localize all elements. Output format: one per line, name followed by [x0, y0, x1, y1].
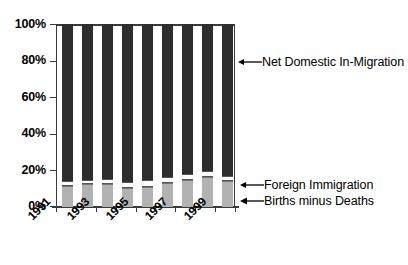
bar-segment-foreign-immigration [162, 177, 173, 183]
bar-segment-foreign-immigration [182, 174, 193, 180]
bar-segment-net-domestic-in-migration [222, 24, 233, 176]
bar-1994 [122, 24, 133, 207]
bar-segment-net-domestic-in-migration [162, 24, 173, 177]
annotation-births-minus-deaths: Births minus Deaths [240, 194, 374, 208]
arrow-left-icon [240, 180, 264, 190]
bar-1991 [62, 24, 73, 207]
x-axis-tick [215, 207, 216, 212]
annotation-foreign-immigration: Foreign Immigration [240, 178, 373, 192]
x-axis-tick [136, 207, 137, 212]
arrow-left-icon [240, 196, 264, 206]
bar-1993 [102, 24, 113, 207]
x-axis-tick [96, 207, 97, 212]
bar-1995 [142, 24, 153, 207]
bar-segment-net-domestic-in-migration [182, 24, 193, 174]
x-axis-tick [235, 207, 236, 212]
bar-segment-net-domestic-in-migration [62, 24, 73, 181]
bar-1996 [162, 24, 173, 207]
stacked-bar-chart: 100% 80% 60% 40% 20% 0% 1991 1993 1995 1… [0, 0, 408, 265]
bar-1998 [202, 24, 213, 207]
bar-segment-net-domestic-in-migration [82, 24, 93, 180]
annotation-label: Births minus Deaths [264, 194, 374, 208]
y-axis-label-80: 80% [0, 54, 46, 67]
bar-segment-net-domestic-in-migration [202, 24, 213, 171]
annotation-label: Net Domestic In-Migration [262, 55, 404, 69]
arrow-left-icon [238, 57, 262, 67]
bar-segment-net-domestic-in-migration [142, 24, 153, 180]
bars-container [56, 24, 235, 207]
x-axis-tick [175, 207, 176, 212]
y-axis-label-20: 20% [0, 164, 46, 177]
annotation-label: Foreign Immigration [264, 178, 373, 192]
bar-segment-foreign-immigration [142, 180, 153, 186]
y-axis-label-60: 60% [0, 91, 46, 104]
y-axis-label-40: 40% [0, 127, 46, 140]
bar-1992 [82, 24, 93, 207]
bar-segment-net-domestic-in-migration [102, 24, 113, 179]
bar-segment-births-minus-deaths [222, 181, 233, 207]
y-axis-label-100: 100% [0, 18, 46, 31]
bar-segment-net-domestic-in-migration [122, 24, 133, 182]
bar-1997 [182, 24, 193, 207]
annotation-net-domestic-in-migration: Net Domestic In-Migration [238, 55, 404, 69]
bar-1999 [222, 24, 233, 207]
x-axis-tick [56, 207, 57, 212]
